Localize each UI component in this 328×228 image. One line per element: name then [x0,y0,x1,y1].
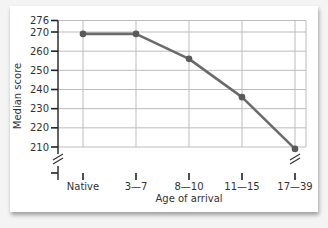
x-tick-label: 17—39 [277,181,312,192]
line-chart: 276270260250240230220210 Native3—78—1011… [0,0,328,228]
y-axis: 276270260250240230220210 [30,15,63,180]
data-point [133,31,140,38]
y-tick-label: 260 [30,46,49,57]
y-tick-label: 250 [30,65,49,76]
y-tick-label: 270 [30,27,49,38]
y-tick-label: 230 [30,103,49,114]
y-axis-label: Median score [12,63,23,129]
y-tick-label: 220 [30,122,49,133]
x-tick-label: 11—15 [224,181,259,192]
x-tick-label: Native [67,181,99,192]
y-tick-label: 210 [30,142,49,153]
x-tick-label: 3—7 [125,181,148,192]
y-tick-label: 276 [30,15,49,26]
data-point [239,94,246,101]
x-axis-label: Age of arrival [155,193,222,204]
y-tick-label: 240 [30,84,49,95]
gridlines [58,21,306,166]
x-axis: Native3—78—1011—1517—39 [67,154,313,192]
data-point [186,56,193,63]
data-point [292,146,299,153]
data-point [80,31,87,38]
x-tick-label: 8—10 [174,181,203,192]
